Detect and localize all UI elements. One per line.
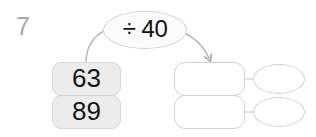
operation-bubble: ÷ 40	[103, 11, 187, 49]
input-box-2-value: 89	[72, 98, 101, 124]
input-box-2: 89	[52, 95, 121, 129]
answer-box-1[interactable]	[174, 62, 245, 96]
worksheet-canvas: 7 ÷ 40 63 89	[0, 0, 316, 137]
question-number: 7	[16, 14, 30, 39]
input-box-1: 63	[52, 62, 121, 96]
answer-oval-1[interactable]	[253, 64, 305, 94]
curve-input-to-operation	[86, 31, 104, 62]
arrow-operation-to-output	[185, 33, 209, 58]
answer-oval-2[interactable]	[253, 97, 305, 127]
answer-box-2[interactable]	[174, 95, 245, 129]
operation-label: ÷ 40	[123, 17, 168, 41]
input-box-1-value: 63	[72, 65, 101, 91]
